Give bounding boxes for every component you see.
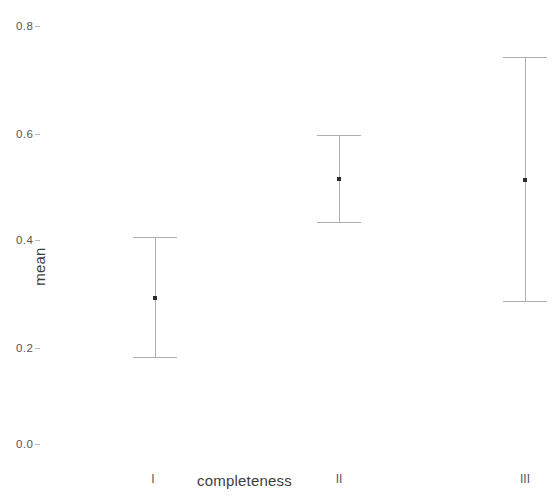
x-axis-tick-II: II <box>336 472 343 486</box>
y-axis-tick-3: 0.2 <box>16 342 40 354</box>
y-tick-mark-icon <box>35 348 40 349</box>
y-axis-title: mean <box>31 237 48 297</box>
y-axis-tick-4: 0.0 <box>16 438 40 450</box>
mean-point <box>523 178 527 182</box>
errorbar-chart: 0.8 0.6 0.4 0.2 0.0 mean I II III comple… <box>0 0 559 500</box>
y-tick-mark-icon <box>35 134 40 135</box>
y-axis-tick-label: 0.2 <box>16 342 33 354</box>
y-axis-tick-label: 0.6 <box>16 128 33 140</box>
y-axis-tick-0: 0.8 <box>16 20 40 32</box>
y-tick-mark-icon <box>35 444 40 445</box>
x-axis-tick-III: III <box>520 472 530 486</box>
errorbar-cap-lower <box>317 222 361 223</box>
y-tick-mark-icon <box>35 26 40 27</box>
errorbar-cap-lower <box>503 301 547 302</box>
y-axis-tick-label: 0.0 <box>16 438 33 450</box>
y-axis-tick-label: 0.8 <box>16 20 33 32</box>
x-axis-title: completeness <box>197 472 292 489</box>
y-axis-tick-1: 0.6 <box>16 128 40 140</box>
errorbar-group-I <box>133 237 177 358</box>
errorbar-group-III <box>503 57 547 302</box>
x-axis-tick-I: I <box>151 472 154 486</box>
mean-point <box>153 296 157 300</box>
mean-point <box>337 177 341 181</box>
errorbar-cap-lower <box>133 357 177 358</box>
errorbar-group-II <box>317 135 361 223</box>
